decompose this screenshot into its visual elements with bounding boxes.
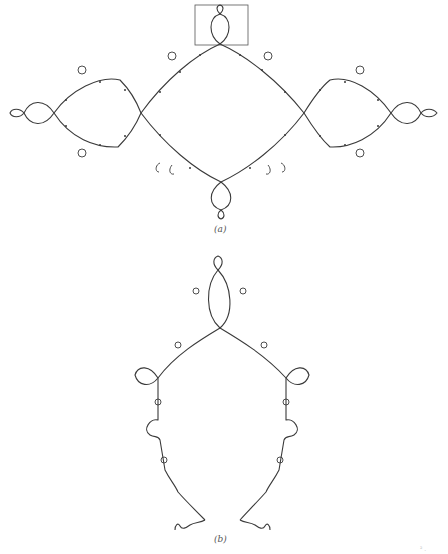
panel-b-label: (b) xyxy=(214,534,227,544)
footer-fragment: ² . xyxy=(420,545,426,552)
inset-box xyxy=(195,5,248,45)
panel-b-curve xyxy=(135,256,309,530)
panel-a-label: (a) xyxy=(214,224,226,234)
julia-set-figure xyxy=(0,0,448,554)
panel-a-curve xyxy=(10,5,437,219)
